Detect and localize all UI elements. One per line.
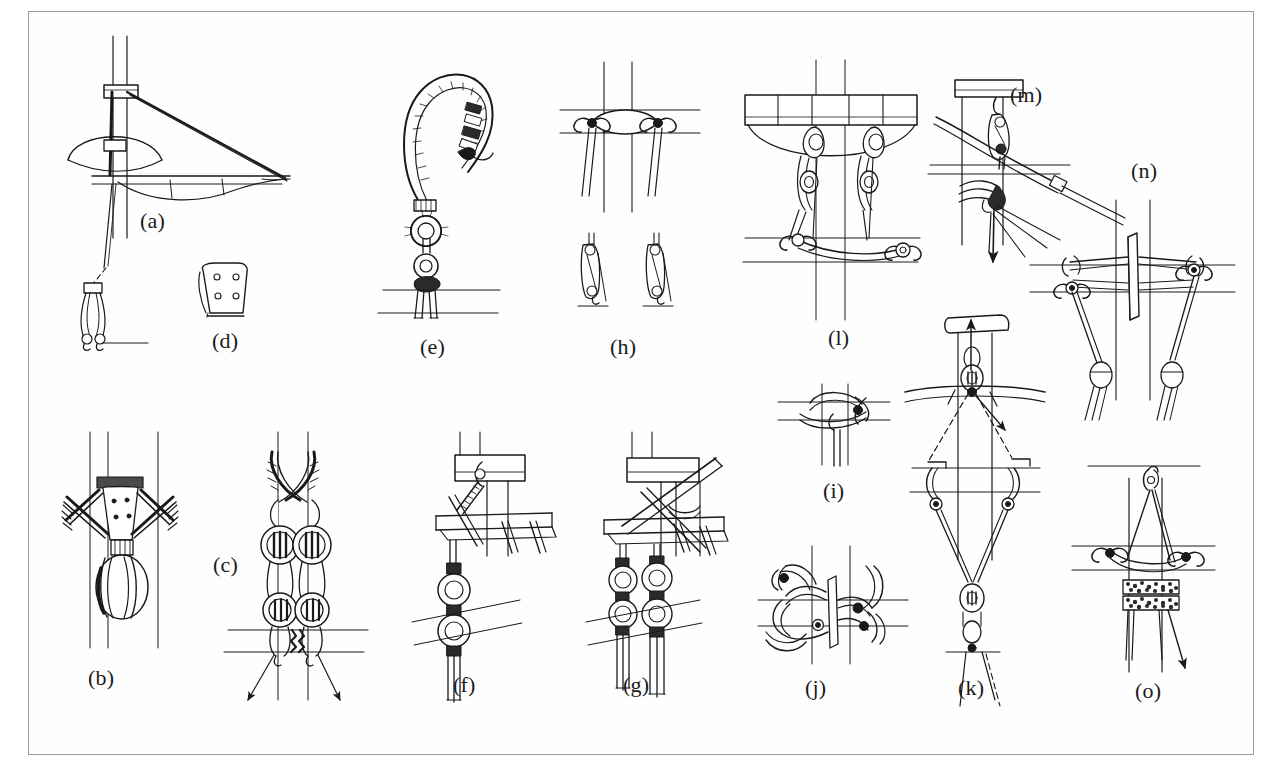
figure-label-d: (d): [212, 328, 238, 354]
figure-h-drawing: [560, 62, 700, 306]
figure-e-drawing: [378, 74, 500, 318]
figure-a-drawing: [68, 36, 290, 350]
figure-d-drawing: [199, 263, 247, 317]
figure-label-j: (j): [805, 675, 826, 701]
figure-j-drawing: [758, 546, 908, 664]
figure-label-c: (c): [213, 552, 238, 578]
figure-label-a: (a): [140, 208, 165, 234]
figure-k-drawing: [905, 315, 1045, 706]
figure-c-drawing: [224, 432, 368, 700]
figure-label-i: (i): [823, 478, 844, 504]
figure-f-drawing: [412, 432, 556, 702]
line-drawing-canvas: [0, 0, 1270, 775]
figure-plate: (a) (b) (c) (d) (e) (f) (g) (h) (i) (j) …: [0, 0, 1270, 775]
figure-o-drawing: [1072, 466, 1215, 672]
figure-label-l: (l): [828, 325, 849, 351]
figure-label-n: (n): [1131, 158, 1157, 184]
figure-label-k: (k): [958, 675, 984, 701]
figure-n-drawing: [1030, 200, 1235, 420]
figure-i-drawing: [778, 384, 890, 466]
figure-g-drawing: [586, 432, 728, 697]
figure-b-drawing: [62, 432, 178, 648]
figure-label-f: (f): [453, 672, 476, 698]
figure-label-h: (h): [610, 334, 636, 360]
figure-label-g: (g): [623, 672, 649, 698]
figure-label-e: (e): [420, 334, 445, 360]
figure-label-o: (o): [1135, 678, 1161, 704]
figure-label-m: (m): [1010, 82, 1042, 108]
figure-label-b: (b): [88, 665, 114, 691]
figure-l-drawing: [743, 60, 921, 320]
